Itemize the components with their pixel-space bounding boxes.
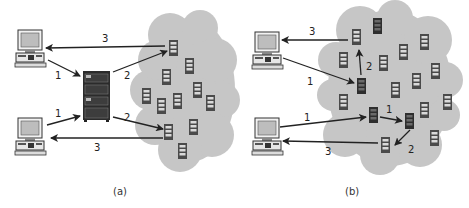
arrow-label: 2 xyxy=(124,112,130,123)
diagram-stage: 3 1 2 1 2 3 xyxy=(0,0,469,208)
client-computer-icon xyxy=(252,118,283,155)
arrow-label: 3 xyxy=(94,142,100,153)
server-icon xyxy=(379,55,388,71)
panel-b: 3 1 2 1 1 2 3 xyxy=(252,0,463,175)
server-icon xyxy=(164,124,173,140)
active-server-icon xyxy=(405,113,414,129)
server-icon xyxy=(420,102,429,118)
server-icon xyxy=(399,44,408,60)
arrow-label: 1 xyxy=(304,112,310,123)
server-icon xyxy=(169,40,178,56)
server-icon xyxy=(142,88,151,104)
server-icon xyxy=(157,98,166,114)
server-icon xyxy=(178,143,187,159)
arrow-request xyxy=(47,116,80,125)
client-computer-icon xyxy=(15,118,46,155)
server-icon xyxy=(189,119,198,135)
server-icon xyxy=(206,95,215,111)
server-icon xyxy=(173,93,182,109)
arrow-label: 3 xyxy=(325,146,331,157)
panel-a: 3 1 2 1 2 3 xyxy=(15,10,240,172)
active-server-icon xyxy=(357,78,366,94)
active-server-icon xyxy=(369,107,378,123)
server-icon xyxy=(391,82,400,98)
client-computer-icon xyxy=(252,32,283,69)
server-icon xyxy=(412,73,421,89)
server-icon xyxy=(373,18,382,34)
client-computer-icon xyxy=(15,30,46,67)
server-icon xyxy=(193,82,202,98)
server-icon xyxy=(185,58,194,74)
arrow-label: 2 xyxy=(124,70,130,81)
arrow-label: 3 xyxy=(102,33,108,44)
panel-b-caption: (b) xyxy=(345,186,359,197)
central-server-icon xyxy=(83,71,110,122)
arrow-label: 3 xyxy=(309,26,315,37)
server-icon xyxy=(339,94,348,110)
arrow-label: 1 xyxy=(307,76,313,87)
server-icon xyxy=(443,94,452,110)
server-icon xyxy=(420,34,429,50)
server-icon xyxy=(339,52,348,68)
server-icon xyxy=(381,137,390,153)
arrow-request xyxy=(48,60,80,76)
arrow-label: 1 xyxy=(55,108,61,119)
server-icon xyxy=(162,69,171,85)
server-icon xyxy=(430,130,439,146)
arrow-label: 2 xyxy=(408,144,414,155)
server-icon xyxy=(431,63,440,79)
server-icon xyxy=(352,29,361,45)
arrow-label: 2 xyxy=(366,61,372,72)
panel-a-caption: (a) xyxy=(113,186,127,197)
arrow-label: 1 xyxy=(386,104,392,115)
arrow-label: 1 xyxy=(55,70,61,81)
